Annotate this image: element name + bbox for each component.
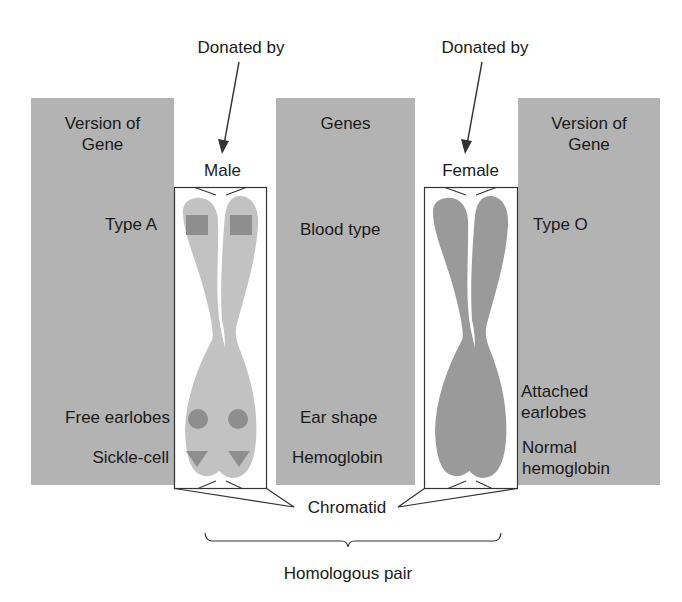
right-column-header: Version of Gene — [518, 113, 660, 155]
male-label: Male — [190, 160, 255, 181]
gene-hemoglobin: Hemoglobin — [292, 447, 383, 468]
female-version-blood-type: Type O — [533, 214, 588, 235]
type-a-marker-right — [230, 215, 252, 235]
male-version-hemoglobin: Sickle-cell — [31, 447, 169, 468]
gene-ear-shape: Ear shape — [300, 407, 378, 428]
homologous-pair-brace — [205, 533, 501, 547]
male-chromosome-box — [175, 188, 267, 489]
female-version-ear-shape: Attached earlobes — [521, 381, 588, 423]
female-arrow — [466, 62, 482, 150]
female-arrowhead-icon — [461, 139, 472, 154]
left-column-header: Version of Gene — [31, 113, 174, 155]
male-arrow — [223, 62, 239, 150]
male-arrowhead-icon — [218, 139, 229, 154]
genes-column-header: Genes — [276, 113, 415, 134]
female-label: Female — [433, 160, 508, 181]
earlobe-marker-left — [188, 409, 208, 429]
homologous-pair-label: Homologous pair — [268, 563, 428, 584]
donated-by-label-male: Donated by — [186, 37, 296, 58]
female-version-hemoglobin: Normal hemoglobin — [522, 437, 610, 479]
earlobe-marker-right — [228, 409, 248, 429]
type-a-marker-left — [186, 215, 208, 235]
female-chromosome-box — [425, 188, 518, 489]
chromatid-label: Chromatid — [294, 497, 400, 518]
gene-blood-type: Blood type — [300, 219, 380, 240]
male-version-blood-type: Type A — [31, 214, 157, 235]
male-version-ear-shape: Free earlobes — [31, 407, 170, 428]
donated-by-label-female: Donated by — [430, 37, 540, 58]
